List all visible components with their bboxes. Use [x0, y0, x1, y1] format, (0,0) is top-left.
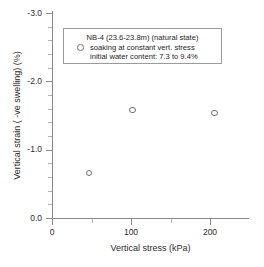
x-tick-minor — [171, 219, 172, 223]
x-tick-label: 100 — [111, 228, 151, 237]
data-point — [211, 110, 218, 117]
x-tick-label: 0 — [32, 228, 72, 237]
chart-figure: -3.0-2.0-1.00.0 0100200 NB-4 (23.6-23.8m… — [0, 0, 264, 267]
x-tick — [52, 219, 53, 225]
x-tick — [131, 219, 132, 225]
legend-marker-icon — [77, 44, 84, 51]
x-tick — [210, 219, 211, 225]
x-tick-minor — [92, 219, 93, 223]
legend-line-condition: soaking at constant vert. stress — [90, 43, 195, 52]
x-tick-label: 200 — [190, 228, 230, 237]
legend-line-title: NB-4 (23.6-23.8m) (natural state) — [64, 33, 221, 42]
data-point — [86, 170, 93, 177]
data-point — [129, 107, 136, 114]
x-axis-title: Vertical stress (kPa) — [52, 243, 249, 254]
x-axis-spine — [52, 218, 249, 219]
legend: NB-4 (23.6-23.8m) (natural state) soakin… — [63, 28, 222, 64]
y-axis-title: Vertical strain ( -ve swelling) (%) — [12, 16, 23, 216]
legend-line-water-content: initial water content: 7.3 to 9.4% — [90, 52, 198, 61]
